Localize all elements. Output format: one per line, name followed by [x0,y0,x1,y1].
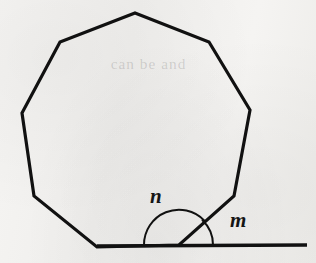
geometry-figure: can be and n m [0,0,316,263]
diagram-canvas [0,0,316,263]
angle-label-n: n [150,186,162,207]
angle-label-m: m [230,210,246,231]
nonagon-shape [22,13,250,247]
horizontal-baseline [97,245,307,246]
angle-arc-n [144,210,204,245]
